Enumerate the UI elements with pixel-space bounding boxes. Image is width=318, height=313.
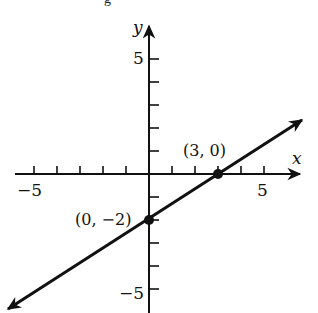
x-axis-label: x: [292, 148, 302, 168]
y-axis: y 5 −5: [119, 17, 159, 313]
x-tick-label-neg5: −5: [17, 180, 42, 200]
graphed-line: [8, 120, 302, 309]
partial-text-top: g: [104, 0, 111, 6]
y-axis-label: y: [132, 17, 143, 37]
x-axis: x −5 5: [15, 148, 302, 200]
x-tick-label-5: 5: [257, 180, 268, 200]
point-x-intercept: [213, 169, 223, 179]
point-label-y-intercept: (0, −2): [75, 210, 131, 229]
coordinate-graph: g x −5 5 y 5 −5 (3, 0) (0, −2): [0, 0, 318, 313]
y-tick-label-5: 5: [133, 48, 144, 68]
point-y-intercept: [144, 215, 154, 225]
y-tick-label-neg5: −5: [119, 283, 144, 303]
point-label-x-intercept: (3, 0): [183, 141, 226, 160]
